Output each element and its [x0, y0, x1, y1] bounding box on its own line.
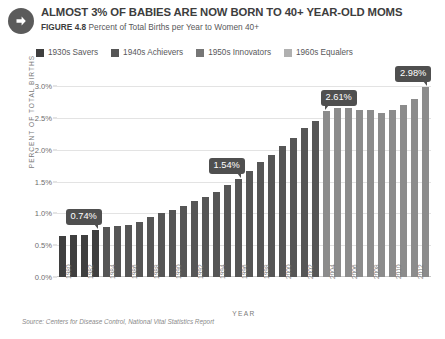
legend-swatch-icon [196, 49, 204, 57]
gridline [57, 86, 431, 87]
gridline [57, 213, 431, 214]
gridline [57, 182, 431, 183]
bar [246, 171, 254, 277]
y-axis-tick-label: 1.0% [12, 209, 52, 218]
data-label-callout: 2.98% [395, 66, 431, 82]
x-axis-tick-label: 2008 [373, 264, 380, 279]
plot-area: 0.74%1.54%2.61%2.98% [57, 86, 431, 277]
x-axis-tick-label: 2000 [285, 264, 292, 279]
legend-item-label: 1930s Savers [48, 48, 98, 57]
bar [301, 128, 309, 277]
bar [279, 146, 287, 277]
x-axis: 1980198219841986198819901992199419961998… [57, 279, 431, 307]
x-axis-title: YEAR [57, 310, 431, 317]
gridline [57, 118, 431, 119]
legend-item: 1950s Innovators [196, 48, 271, 57]
chart-legend: 1930s Savers1940s Achievers1950s Innovat… [36, 48, 353, 57]
bar [268, 155, 276, 277]
y-axis-tick-label: 1.5% [12, 177, 52, 186]
legend-swatch-icon [284, 49, 292, 57]
x-axis-tick-label: 1998 [263, 264, 270, 279]
bar [367, 110, 375, 277]
legend-item-label: 1960s Equalers [296, 48, 353, 57]
data-label-callout: 2.61% [321, 90, 357, 106]
x-axis-tick-label: 1982 [87, 264, 94, 279]
bar [235, 179, 243, 277]
bar [257, 162, 265, 277]
bar [290, 138, 298, 277]
page-title: ALMOST 3% OF BABIES ARE NOW BORN TO 40+ … [41, 6, 441, 19]
x-axis-tick-label: 2012 [417, 264, 424, 279]
data-label-callout: 0.74% [66, 209, 102, 225]
bar [312, 121, 320, 277]
legend-item: 1940s Achievers [111, 48, 183, 57]
x-axis-tick-label: 2004 [329, 264, 336, 279]
x-axis-tick-label: 1992 [197, 264, 204, 279]
bar [389, 110, 397, 277]
x-axis-tick-label: 2010 [395, 264, 402, 279]
legend-item: 1930s Savers [36, 48, 98, 57]
x-axis-tick-label: 2006 [351, 264, 358, 279]
figure-caption: FIGURE 4.8 Percent of Total Births per Y… [41, 22, 441, 32]
bar [323, 111, 331, 277]
x-axis-tick-label: 1990 [175, 264, 182, 279]
figure-number: FIGURE 4.8 [41, 22, 86, 32]
data-label-callout: 1.54% [209, 158, 245, 174]
bar [334, 108, 342, 277]
x-axis-tick-label: 1980 [65, 264, 72, 279]
y-axis-tick-label: 0.0% [12, 273, 52, 282]
legend-item: 1960s Equalers [284, 48, 353, 57]
y-axis-title: PERCENT OF TOTAL BIRTHS [28, 47, 35, 177]
gridline [57, 150, 431, 151]
x-axis-tick-label: 1986 [131, 264, 138, 279]
y-axis-tick-label: 0.5% [12, 241, 52, 250]
legend-item-label: 1940s Achievers [123, 48, 183, 57]
x-axis-tick-label: 1988 [153, 264, 160, 279]
bar [411, 99, 419, 277]
legend-swatch-icon [36, 49, 44, 57]
bar [400, 105, 408, 277]
x-axis-tick-label: 1984 [109, 264, 116, 279]
title-block: ALMOST 3% OF BABIES ARE NOW BORN TO 40+ … [41, 6, 441, 32]
x-axis-tick-label: 1994 [219, 264, 226, 279]
bar [422, 87, 430, 277]
bar [378, 113, 386, 277]
bar [356, 110, 364, 277]
x-axis-tick-label: 2002 [307, 264, 314, 279]
source-note: Source: Centers for Disease Control, Nat… [22, 318, 214, 325]
x-axis-tick-label: 1996 [241, 264, 248, 279]
legend-item-label: 1950s Innovators [208, 48, 271, 57]
figure-caption-text: Percent of Total Births per Year to Wome… [89, 22, 260, 32]
arrow-right-icon [8, 8, 34, 34]
bar [345, 108, 353, 277]
legend-swatch-icon [111, 49, 119, 57]
